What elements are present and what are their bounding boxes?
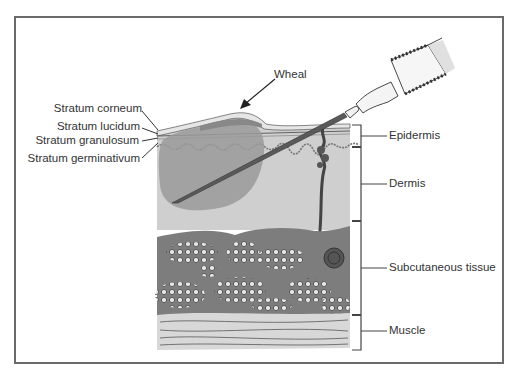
stratum-lucidum-label: Stratum lucidum	[57, 121, 140, 133]
subcutaneous-layer	[155, 226, 350, 315]
muscle-label: Muscle	[389, 325, 425, 337]
dermis-label: Dermis	[389, 178, 425, 190]
muscle-layer	[157, 313, 350, 350]
subcutaneous-tissue-label: Subcutaneous tissue	[389, 262, 496, 274]
wheal-arrow	[240, 79, 275, 109]
epidermis-label: Epidermis	[389, 130, 440, 142]
skin-cross-section-illustration	[0, 0, 517, 379]
wheal-label: Wheal	[274, 69, 307, 81]
stratum-granulosum-label: Stratum granulosum	[35, 135, 139, 147]
stratum-germinativum-label: Stratum germinativum	[28, 153, 140, 165]
right-brackets	[352, 125, 387, 350]
left-leader-lines	[142, 111, 158, 158]
stratum-corneum-label: Stratum corneum	[54, 103, 142, 115]
